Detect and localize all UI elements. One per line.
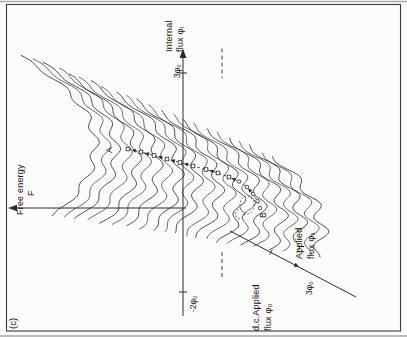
dc-flux-label-line1: d.c.Applied [251,284,261,331]
point-b-label: B [258,212,268,218]
panel-label: (c) [7,318,18,329]
metastable-state-square-marker [191,164,195,168]
metastable-state-square-marker [139,150,143,154]
scanned-figure-page: Free energy F Internal flux φᵢ 3φ₀ -2φ₀ … [0,0,407,338]
metastable-state-square-marker [126,147,130,151]
metastable-state-circle-marker [237,180,241,184]
metastable-state-square-marker [227,175,231,179]
applied-flux-tick-label-3phi0: 3φ₀ [304,281,314,295]
metastable-state-circle-marker [245,185,249,189]
figure-canvas: Free energy F Internal flux φᵢ 3φ₀ -2φ₀ … [0,0,407,338]
metastable-state-square-marker [152,154,156,158]
curve-family [21,55,329,257]
energy-curve [59,68,132,220]
metastable-state-circle-marker [256,199,260,203]
metastable-state-square-marker [204,168,208,172]
metastable-state-circle-marker [251,192,255,196]
trajectory-arrowhead-icon [132,149,137,153]
free-energy-axis-label: Free energy [15,164,25,215]
metastable-state-square-marker [178,161,182,165]
metastable-state-circle-marker [258,206,262,210]
free-energy-symbol: F [26,190,36,196]
internal-flux-label-line1: Internal [164,20,174,52]
dc-flux-label-line2: flux φ₀ [263,303,273,331]
internal-flux-tick-label-3phi0: 3φ₀ [172,64,182,78]
internal-flux-label-line2: flux φᵢ [175,27,185,52]
metastable-state-square-marker [165,157,169,161]
trajectory-arrowhead-icon [184,163,189,167]
point-a-label: A [104,147,114,153]
energy-curve [91,81,163,226]
energy-curve [43,62,121,218]
internal-flux-tick-label-neg2phi0: -2φ₀ [188,295,198,312]
internal-flux-axis [179,49,187,317]
applied-flux-label-line2: flux φₓ [306,232,316,259]
metastable-state-square-marker [216,171,220,175]
free-energy-axis [8,205,186,211]
applied-flux-label-line1: Applied [294,228,304,259]
